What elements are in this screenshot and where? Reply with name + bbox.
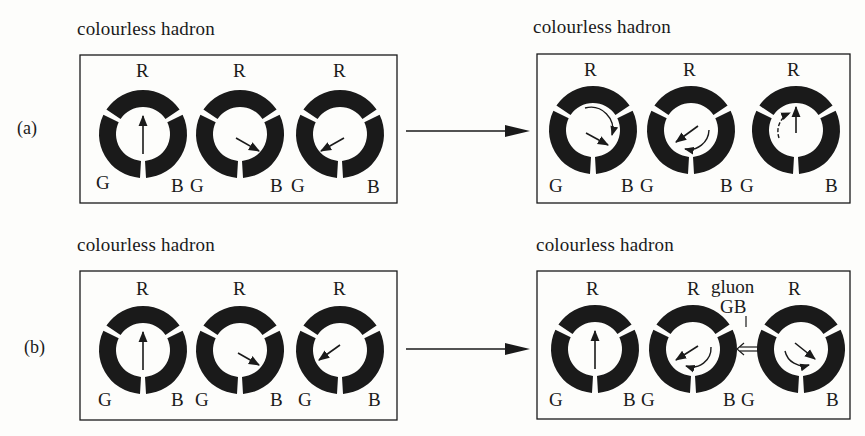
svg-text:G: G <box>298 389 312 410</box>
quark-ring-a-before-1 <box>99 90 187 178</box>
quark-ring-a-after-3 <box>752 86 840 174</box>
svg-text:R: R <box>136 60 149 81</box>
svg-text:R: R <box>687 278 700 299</box>
svg-text:G: G <box>741 389 755 410</box>
svg-text:R: R <box>788 278 801 299</box>
svg-text:R: R <box>787 59 800 80</box>
svg-text:B: B <box>171 389 184 410</box>
svg-text:G: G <box>641 389 655 410</box>
quark-ring-a-before-3 <box>296 90 384 178</box>
quark-ring-b-before-2 <box>196 306 284 394</box>
transition-arrow-a <box>406 125 530 137</box>
quark-ring-a-after-2 <box>647 86 735 174</box>
transition-arrow-b <box>406 343 530 355</box>
svg-text:G: G <box>291 175 305 196</box>
svg-text:B: B <box>368 389 381 410</box>
svg-text:B: B <box>171 175 184 196</box>
svg-text:R: R <box>233 278 246 299</box>
svg-text:B: B <box>720 175 733 196</box>
svg-text:G: G <box>549 175 563 196</box>
svg-text:B: B <box>367 176 380 197</box>
svg-text:B: B <box>723 389 736 410</box>
svg-text:R: R <box>333 278 346 299</box>
quark-ring-b-after-3 <box>757 305 845 393</box>
svg-text:B: B <box>270 175 283 196</box>
svg-text:G: G <box>640 175 654 196</box>
quark-ring-b-after-1 <box>551 305 639 393</box>
svg-text:G: G <box>190 175 204 196</box>
quark-ring-b-before-1 <box>99 306 187 394</box>
svg-text:G: G <box>740 175 754 196</box>
quark-ring-b-before-3 <box>296 306 384 394</box>
quark-ring-a-before-2 <box>196 90 284 178</box>
svg-text:B: B <box>825 175 838 196</box>
gluon-exchange-arrow <box>737 316 759 355</box>
svg-text:R: R <box>584 59 597 80</box>
svg-text:R: R <box>136 278 149 299</box>
hadron-diagram: R R R G B G B G B R R R G B G B G B R R … <box>0 0 865 436</box>
quark-ring-b-after-2 <box>649 305 737 393</box>
svg-text:R: R <box>586 278 599 299</box>
quark-ring-a-after-1 <box>549 86 637 174</box>
svg-text:G: G <box>98 389 112 410</box>
svg-text:B: B <box>270 389 283 410</box>
svg-text:G: G <box>96 172 110 193</box>
svg-text:B: B <box>621 175 634 196</box>
svg-text:R: R <box>333 60 346 81</box>
svg-text:G: G <box>549 389 563 410</box>
svg-text:R: R <box>233 60 246 81</box>
svg-text:G: G <box>195 389 209 410</box>
svg-text:R: R <box>683 59 696 80</box>
svg-text:B: B <box>826 389 839 410</box>
svg-text:B: B <box>623 389 636 410</box>
